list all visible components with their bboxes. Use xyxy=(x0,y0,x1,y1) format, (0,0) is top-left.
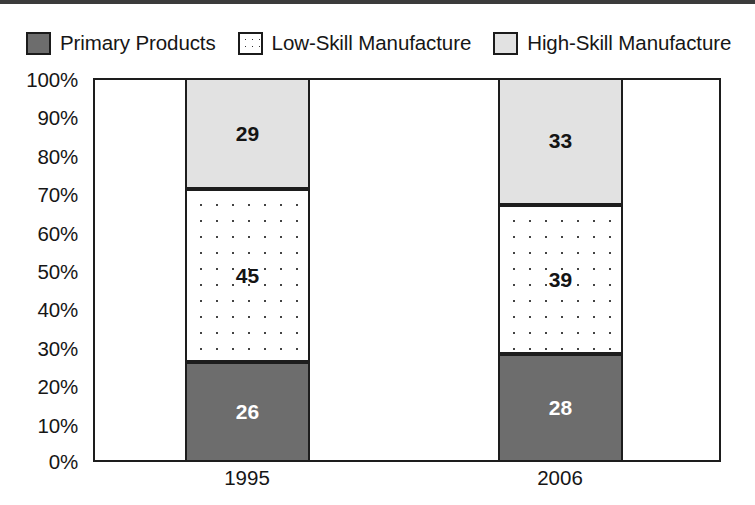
legend-label-primary-products: Primary Products xyxy=(60,31,216,55)
x-axis-tick-2006: 2006 xyxy=(537,466,583,490)
bar-segment-1995-high-skill-manufacture[interactable]: 29 xyxy=(185,78,310,189)
bar-segment-2006-primary-products[interactable]: 28 xyxy=(498,354,623,462)
y-axis-tick-30: 30% xyxy=(38,337,78,361)
y-axis-tick-60: 60% xyxy=(38,222,78,246)
bar-segment-2006-high-skill-manufacture[interactable]: 33 xyxy=(498,78,623,205)
y-axis-tick-0: 0% xyxy=(49,450,78,474)
scan-edge-rule xyxy=(0,0,755,4)
legend-swatch-high-skill-manufacture-icon xyxy=(493,32,518,55)
bar-group-2006: 28 39 33 xyxy=(498,78,623,462)
chart-legend: Primary Products Low-Skill Manufacture H… xyxy=(26,29,736,57)
bar-group-1995: 26 45 29 xyxy=(185,78,310,462)
y-axis-tick-70: 70% xyxy=(38,183,78,207)
y-axis-tick-10: 10% xyxy=(38,414,78,438)
bar-value-1995-high-skill-manufacture: 29 xyxy=(236,122,259,146)
legend-label-high-skill-manufacture: High-Skill Manufacture xyxy=(527,31,731,55)
bar-segment-1995-low-skill-manufacture[interactable]: 45 xyxy=(185,189,310,362)
legend-swatch-primary-products-icon xyxy=(26,32,51,55)
y-axis-tick-100: 100% xyxy=(26,68,78,92)
bar-segment-2006-low-skill-manufacture[interactable]: 39 xyxy=(498,205,623,355)
y-axis-tick-40: 40% xyxy=(38,298,78,322)
bar-value-2006-low-skill-manufacture: 39 xyxy=(549,268,572,292)
legend-swatch-low-skill-manufacture-icon xyxy=(238,32,263,55)
y-axis-tick-90: 90% xyxy=(38,106,78,130)
bars-layer: 26 45 29 28 39 33 xyxy=(93,78,721,462)
bar-value-1995-low-skill-manufacture: 45 xyxy=(236,264,259,288)
y-axis-tick-80: 80% xyxy=(38,145,78,169)
legend-label-low-skill-manufacture: Low-Skill Manufacture xyxy=(272,31,472,55)
stacked-bar-chart-figure: Primary Products Low-Skill Manufacture H… xyxy=(0,0,755,505)
y-axis-tick-50: 50% xyxy=(38,260,78,284)
x-axis-tick-1995: 1995 xyxy=(224,466,270,490)
x-axis: 1995 2006 xyxy=(93,466,721,500)
bar-value-2006-primary-products: 28 xyxy=(549,396,572,420)
bar-value-1995-primary-products: 26 xyxy=(236,400,259,424)
y-axis: 100% 90% 80% 70% 60% 50% 40% 30% 20% 10%… xyxy=(0,78,86,462)
bar-value-2006-high-skill-manufacture: 33 xyxy=(549,129,572,153)
bar-segment-1995-primary-products[interactable]: 26 xyxy=(185,362,310,462)
legend-item-primary-products[interactable]: Primary Products xyxy=(26,31,216,55)
legend-item-low-skill-manufacture[interactable]: Low-Skill Manufacture xyxy=(238,31,472,55)
legend-item-high-skill-manufacture[interactable]: High-Skill Manufacture xyxy=(493,31,731,55)
y-axis-tick-20: 20% xyxy=(38,375,78,399)
